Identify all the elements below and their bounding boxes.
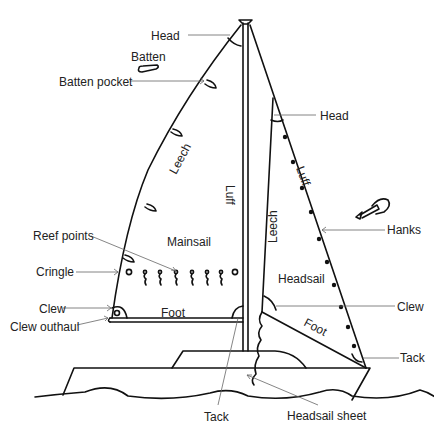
hank-icon [356,199,389,219]
label-batten: Batten [131,50,166,64]
reef-points [126,269,237,285]
hull [63,368,370,400]
label-tack-main: Tack [204,410,230,424]
cabin [172,351,306,368]
label-head-headsail: Head [320,109,349,123]
label-clew-outhaul: Clew outhaul [10,320,79,334]
water-line [35,388,434,399]
leader-lines [63,35,399,405]
label-mainsail: Mainsail [167,235,211,249]
label-head-main: Head [151,29,180,43]
batten-icon [138,65,158,72]
label-luff-headsail: Luff [293,164,313,188]
label-clew-main: Clew [39,302,66,316]
label-batten-pocket: Batten pocket [59,75,133,89]
label-tack-headsail: Tack [400,351,426,365]
sail-diagram: Head Batten Batten pocket Head Leech Luf… [0,0,434,433]
label-leech-headsail: Leech [266,210,280,243]
label-headsail: Headsail [278,272,325,286]
label-leech-main: Leech [166,141,194,176]
mast [239,20,252,351]
label-headsail-sheet: Headsail sheet [287,409,367,423]
label-clew-headsail: Clew [397,300,424,314]
label-cringle: Cringle [36,265,74,279]
label-reef-points: Reef points [33,229,94,243]
label-hanks: Hanks [387,223,421,237]
label-luff-main: Luff [223,185,237,205]
label-foot-main: Foot [161,306,186,320]
